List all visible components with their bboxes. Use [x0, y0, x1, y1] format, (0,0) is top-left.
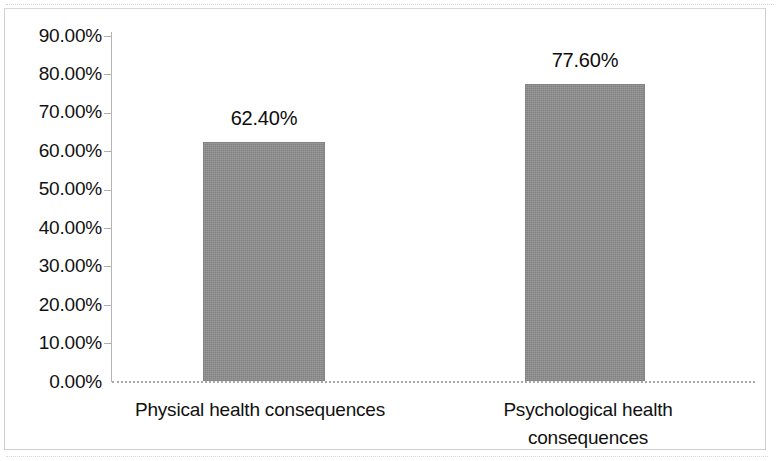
y-axis-tick-label: 70.00%: [2, 101, 102, 123]
y-axis-tick-label: 60.00%: [2, 140, 102, 162]
x-axis-baseline: [112, 381, 755, 383]
x-axis-category-label-line: Psychological health: [438, 396, 738, 424]
y-axis-tick-label: 40.00%: [2, 217, 102, 239]
y-axis-tick-label: 90.00%: [2, 25, 102, 47]
bar-value-label: 62.40%: [163, 107, 365, 130]
bar-value-label: 77.60%: [485, 49, 685, 72]
y-axis-tick-label: 50.00%: [2, 178, 102, 200]
x-axis-category-label-line: Physical health consequences: [110, 396, 410, 424]
bar-chart: 90.00% 80.00% 70.00% 60.00% 50.00% 40.00…: [0, 0, 777, 461]
bar-physical-health-consequences: [203, 142, 325, 381]
y-axis-tick-label: 30.00%: [2, 255, 102, 277]
chart-frame-bottom-edge: [6, 456, 768, 457]
chart-frame-top-edge: [6, 4, 774, 5]
y-axis-labels: 90.00% 80.00% 70.00% 60.00% 50.00% 40.00…: [0, 0, 102, 461]
y-axis-tick-label: 80.00%: [2, 63, 102, 85]
y-axis-tick-label: 20.00%: [2, 294, 102, 316]
bar-psychological-health-consequences: [525, 84, 645, 381]
x-axis-category-label: Psychological health consequences: [438, 396, 738, 452]
x-axis-category-label-line: consequences: [438, 424, 738, 452]
x-axis-category-label: Physical health consequences: [110, 396, 410, 424]
chart-frame-border: [4, 8, 766, 450]
y-axis-tick-label: 0.00%: [2, 371, 102, 393]
y-axis-tick-label: 10.00%: [2, 332, 102, 354]
y-axis-line: [111, 32, 112, 382]
